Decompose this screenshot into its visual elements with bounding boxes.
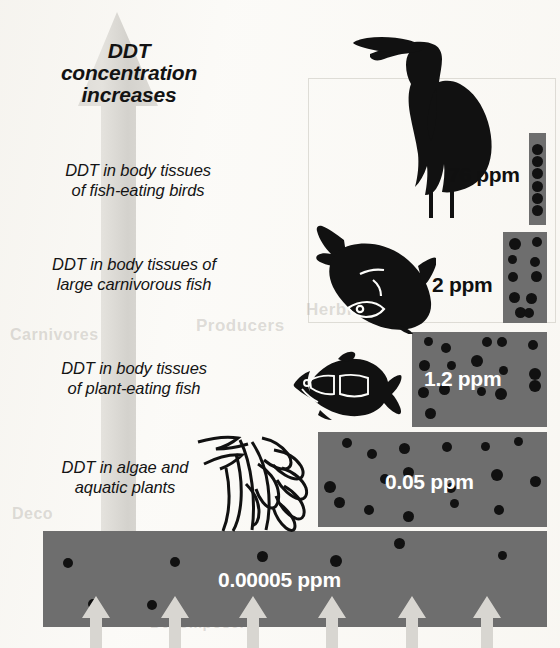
algae-silhouette: [196, 424, 326, 532]
ddt-dot: [330, 555, 342, 567]
label-line-1: DDT in body tissues: [22, 160, 254, 180]
ddt-dot: [491, 469, 503, 481]
ddt-biomagnification-figure: HerbivoresProducersDecoDecomposersCarniv…: [0, 0, 560, 648]
ddt-dot: [494, 505, 504, 515]
caption-line-3: increases: [14, 84, 244, 106]
caption-line-1: DDT: [14, 40, 244, 62]
ddt-dot: [498, 551, 507, 560]
value-water: 0.00005 ppm: [218, 568, 341, 592]
label-line-2: large carnivorous fish: [14, 274, 254, 294]
ddt-dot: [170, 557, 180, 567]
ddt-dot: [367, 449, 377, 459]
concentration-bar-fish-eating-birds: [529, 133, 546, 225]
large-carnivorous-fish-silhouette: [298, 222, 436, 334]
ddt-dot: [524, 308, 534, 318]
value-fish-eating-birds: 76 ppm: [448, 163, 520, 187]
ddt-dot: [425, 408, 436, 419]
ddt-dot: [424, 337, 433, 346]
ddt-dot: [532, 156, 543, 167]
ddt-dot: [394, 538, 405, 549]
ddt-input-arrow: [397, 596, 427, 648]
ddt-dot: [450, 499, 459, 508]
ddt-input-arrow: [472, 596, 502, 648]
ddt-dot: [481, 442, 490, 451]
ddt-dot: [482, 337, 492, 347]
ddt-dot: [528, 340, 538, 350]
ddt-dot: [530, 476, 541, 487]
value-plant-eating-fish: 1.2 ppm: [424, 367, 501, 391]
ddt-dot: [497, 337, 507, 347]
arrow-caption: DDT concentration increases: [14, 40, 244, 106]
ddt-dot: [529, 368, 541, 380]
ddt-dot: [508, 272, 518, 282]
ddt-dot: [63, 558, 73, 568]
label-plant-eating-fish: DDT in body tissues of plant-eating fish: [18, 358, 250, 398]
value-large-carnivorous-fish: 2 ppm: [432, 273, 492, 297]
ddt-dot: [257, 551, 268, 562]
ddt-dot: [334, 497, 345, 508]
ddt-dot: [526, 293, 537, 304]
ddt-dot: [441, 343, 451, 353]
ddt-input-arrow: [238, 596, 268, 648]
ddt-dot: [532, 168, 543, 179]
ddt-dot: [442, 442, 452, 452]
ddt-dot: [529, 380, 541, 392]
heron-silhouette: [352, 22, 502, 218]
ddt-dot: [403, 511, 414, 522]
ddt-dot: [532, 181, 543, 192]
ddt-dot: [508, 255, 517, 264]
plant-eating-fish-silhouette: [280, 350, 408, 422]
ddt-dot: [532, 237, 542, 247]
ddt-dot: [532, 193, 543, 204]
ddt-input-arrow: [81, 596, 111, 648]
label-line-2: of plant-eating fish: [18, 378, 250, 398]
ddt-dot: [532, 144, 543, 155]
concentration-bar-large-carnivorous-fish: [503, 232, 547, 323]
ddt-input-arrow: [160, 596, 190, 648]
ghost-text: Deco: [12, 505, 53, 523]
ddt-dot: [532, 205, 543, 216]
ddt-input-arrow: [317, 596, 347, 648]
ddt-dot: [530, 257, 540, 267]
ddt-dot: [531, 271, 542, 282]
ddt-dot: [399, 443, 410, 454]
ddt-dot: [147, 600, 157, 610]
ghost-text: Producers: [196, 316, 285, 336]
ddt-dot: [342, 438, 352, 448]
label-large-carnivorous-fish: DDT in body tissues of large carnivorous…: [14, 254, 254, 294]
ddt-dot: [514, 437, 523, 446]
label-line-2: of fish-eating birds: [22, 180, 254, 200]
ddt-dot: [364, 505, 374, 515]
value-algae-aquatic-plants: 0.05 ppm: [385, 470, 474, 494]
caption-line-2: concentration: [14, 62, 244, 84]
ddt-dot: [509, 238, 521, 250]
label-line-1: DDT in body tissues of: [14, 254, 254, 274]
ddt-dot: [471, 355, 483, 367]
ddt-dot: [509, 292, 520, 303]
label-fish-eating-birds: DDT in body tissues of fish-eating birds: [22, 160, 254, 200]
label-line-1: DDT in body tissues: [18, 358, 250, 378]
